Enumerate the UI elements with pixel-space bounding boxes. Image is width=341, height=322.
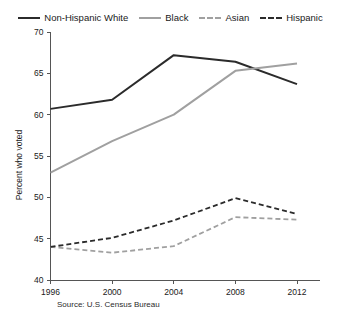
y-tick-label-50: 50 [34, 192, 44, 202]
y-tick-label-60: 60 [34, 110, 44, 120]
series-line-black [51, 63, 298, 172]
y-tick-label-40: 40 [34, 275, 44, 285]
x-tick-label-1996: 1996 [41, 287, 60, 297]
y-tick-label-65: 65 [34, 68, 44, 78]
voter-turnout-line-chart: Non-Hispanic White Black Asian Hispanic … [0, 0, 341, 322]
series-line-non-hispanic-white [51, 55, 298, 109]
y-tick-label-55: 55 [34, 151, 44, 161]
x-tick-label-2000: 2000 [103, 287, 122, 297]
y-tick-label-70: 70 [34, 27, 44, 37]
plot-area: 40455055606570 19962000200420082012 [0, 0, 341, 322]
x-tick-label-2004: 2004 [164, 287, 183, 297]
y-tick-label-45: 45 [34, 234, 44, 244]
x-tick-group: 19962000200420082012 [41, 280, 307, 297]
y-tick-group: 40455055606570 [34, 27, 50, 285]
source-note: Source: U.S. Census Bureau [57, 300, 160, 309]
x-tick-label-2008: 2008 [226, 287, 245, 297]
data-series-group [51, 55, 298, 253]
x-tick-label-2012: 2012 [288, 287, 307, 297]
x-axis: 19962000200420082012 [41, 280, 320, 297]
y-axis: 40455055606570 [34, 27, 50, 285]
series-line-hispanic [51, 198, 298, 247]
series-line-asian [51, 217, 298, 253]
